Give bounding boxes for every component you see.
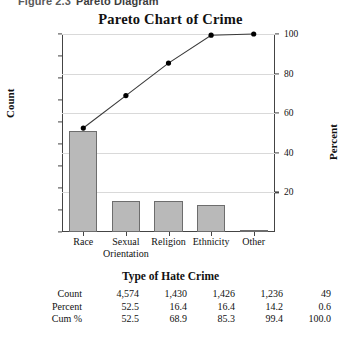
y-tick-mark bbox=[58, 231, 62, 232]
y-tick-mark bbox=[58, 121, 62, 122]
y2-tick-mark bbox=[275, 152, 279, 153]
y-tick-mark bbox=[58, 77, 62, 78]
data-point-marker bbox=[166, 61, 171, 66]
x-tick-label: Ethnicity bbox=[193, 236, 230, 248]
table-cell: 68.9 bbox=[139, 313, 187, 326]
row-count: Count4,5741,4301,4261,23649 bbox=[28, 288, 331, 301]
table-cell: 85.3 bbox=[187, 313, 235, 326]
y-tick-mark bbox=[58, 99, 62, 100]
y-tick-mark bbox=[58, 143, 62, 144]
y-axis-title-percent: Percent bbox=[327, 124, 339, 160]
table-cell: 52.5 bbox=[91, 313, 139, 326]
x-tick-label: SexualOrientation bbox=[103, 236, 149, 259]
y2-tick-mark bbox=[275, 33, 279, 34]
data-point-marker bbox=[81, 125, 86, 130]
table-cell: 4,574 bbox=[91, 288, 139, 301]
plot-area bbox=[62, 34, 275, 232]
table-cell: 52.5 bbox=[91, 301, 139, 314]
table-cell: 1,236 bbox=[235, 288, 283, 301]
x-tick-label: Other bbox=[242, 236, 265, 248]
y2-tick-mark bbox=[275, 73, 279, 74]
table-cell: 16.4 bbox=[187, 301, 235, 314]
chart-title: Pareto Chart of Crime bbox=[0, 11, 341, 28]
y-tick-mark bbox=[58, 165, 62, 166]
y-tick-mark bbox=[58, 55, 62, 56]
table-cell: 16.4 bbox=[139, 301, 187, 314]
x-tick-label: Religion bbox=[151, 236, 185, 248]
table-cell: 14.2 bbox=[235, 301, 283, 314]
x-axis-title: Type of Hate Crime bbox=[0, 270, 341, 282]
table-cell: 0.6 bbox=[283, 301, 331, 314]
table-row-label: Cum % bbox=[28, 313, 91, 326]
data-table: Count4,5741,4301,4261,23649Percent52.516… bbox=[28, 288, 331, 326]
table-cell: 99.4 bbox=[235, 313, 283, 326]
table-cell: 49 bbox=[283, 288, 331, 301]
table-cell: 100.0 bbox=[283, 313, 331, 326]
y-tick-mark bbox=[58, 33, 62, 34]
figure-number: Figure 2.3 bbox=[18, 0, 71, 7]
y2-tick-mark bbox=[275, 192, 279, 193]
y-tick-mark bbox=[58, 187, 62, 188]
data-point-marker bbox=[123, 93, 128, 98]
y2-tick-label: 60 bbox=[284, 108, 294, 118]
y2-tick-mark bbox=[275, 113, 279, 114]
y2-tick-label: 40 bbox=[284, 148, 294, 158]
y2-tick-label: 100 bbox=[284, 29, 298, 39]
data-point-marker bbox=[251, 31, 256, 36]
y2-tick-label: 20 bbox=[284, 187, 294, 197]
y2-tick-label: 80 bbox=[284, 69, 294, 79]
table-cell: 1,430 bbox=[139, 288, 187, 301]
row-cum-percent: Cum %52.568.985.399.4100.0 bbox=[28, 313, 331, 326]
figure-header: Figure 2.3Pareto Diagram bbox=[18, 0, 159, 7]
y-tick-mark bbox=[58, 209, 62, 210]
table-row-label: Count bbox=[28, 288, 91, 301]
row-percent: Percent52.516.416.414.20.6 bbox=[28, 301, 331, 314]
cumulative-line bbox=[83, 34, 253, 128]
table-row-label: Percent bbox=[28, 301, 91, 314]
data-point-marker bbox=[209, 33, 214, 38]
table-cell: 1,426 bbox=[187, 288, 235, 301]
y-axis-title-count: Count bbox=[4, 89, 16, 118]
x-tick-label: Race bbox=[73, 236, 93, 248]
cumulative-line-series bbox=[62, 34, 275, 232]
figure-label: Pareto Diagram bbox=[76, 0, 159, 7]
